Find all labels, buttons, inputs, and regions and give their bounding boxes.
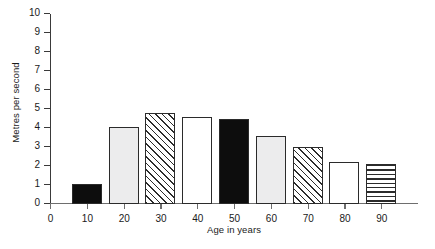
x-axis-tick: 90 (381, 204, 382, 209)
plot-area: 012345678910 0102030405060708090 (50, 14, 418, 204)
y-axis-tick-label: 4 (34, 122, 40, 132)
x-axis-tick-label: 70 (303, 214, 314, 224)
x-axis-title-text: Age in years (207, 224, 261, 235)
x-axis-tick-label: 80 (339, 214, 350, 224)
y-axis-tick-label: 0 (34, 198, 40, 208)
y-axis-tick: 2 (44, 165, 50, 166)
x-axis-tick: 70 (308, 204, 309, 209)
bar-50 (219, 119, 249, 205)
y-axis-tick-label: 3 (34, 141, 40, 151)
y-axis-tick: 4 (44, 127, 50, 128)
x-axis-tick: 60 (271, 204, 272, 209)
y-axis-tick: 1 (44, 184, 50, 185)
x-axis-tick-label: 60 (266, 214, 277, 224)
x-axis-title: Age in years (50, 224, 418, 235)
bar-10 (72, 184, 102, 204)
y-axis-line (50, 14, 51, 204)
bar-60 (256, 136, 286, 204)
x-axis-tick-label: 40 (192, 214, 203, 224)
y-axis-tick: 3 (44, 146, 50, 147)
bar-70 (293, 147, 323, 204)
x-axis-tick: 40 (197, 204, 198, 209)
x-axis-tick: 20 (124, 204, 125, 209)
y-axis-tick: 9 (44, 32, 50, 33)
y-axis-tick: 8 (44, 51, 50, 52)
y-axis-tick-label: 1 (34, 179, 40, 189)
y-axis-tick-label: 10 (29, 8, 40, 18)
y-axis-tick: 5 (44, 108, 50, 109)
bar-30 (145, 113, 175, 204)
y-axis-title: Metres per second (4, 0, 26, 205)
y-axis-tick-label: 8 (34, 46, 40, 56)
y-axis-tick-label: 5 (34, 103, 40, 113)
x-axis-tick-label: 30 (155, 214, 166, 224)
y-axis-tick-label: 6 (34, 84, 40, 94)
x-axis-tick-label: 90 (376, 214, 387, 224)
x-axis-tick: 10 (87, 204, 88, 209)
y-axis-tick: 7 (44, 70, 50, 71)
bar-80 (329, 162, 359, 204)
y-axis-tick-label: 9 (34, 27, 40, 37)
bar-90 (366, 164, 396, 204)
y-axis-tick-label: 7 (34, 65, 40, 75)
y-axis-tick: 6 (44, 89, 50, 90)
x-axis-tick-label: 20 (119, 214, 130, 224)
x-axis-tick-label: 10 (82, 214, 93, 224)
y-axis-title-text: Metres per second (10, 62, 21, 142)
bar-20 (109, 127, 139, 204)
x-axis-tick: 80 (344, 204, 345, 209)
bar-40 (182, 117, 212, 204)
x-axis-tick: 50 (234, 204, 235, 209)
bar-chart: Metres per second 012345678910 010203040… (0, 0, 435, 249)
y-axis-tick: 10 (44, 13, 50, 14)
x-axis-tick-label: 0 (48, 214, 54, 224)
y-axis-tick-label: 2 (34, 160, 40, 170)
x-axis-tick: 0 (50, 204, 51, 209)
x-axis-tick: 30 (160, 204, 161, 209)
x-axis-tick-label: 50 (229, 214, 240, 224)
